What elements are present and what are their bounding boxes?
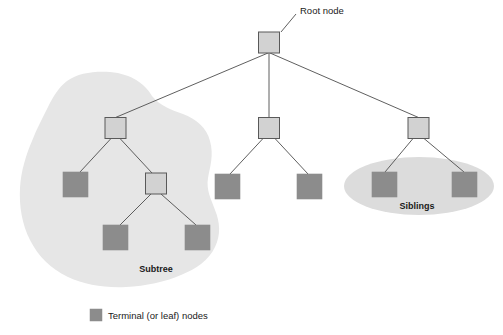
subtree-region-shape xyxy=(20,72,219,287)
root-node-label: Root node xyxy=(300,5,344,16)
leaf-node-middle-2 xyxy=(297,174,322,199)
internal-node-middle xyxy=(259,118,280,139)
internal-node-left xyxy=(105,118,126,139)
internal-node-left-sub xyxy=(146,173,167,194)
legend: Terminal (or leaf) nodes xyxy=(90,309,208,321)
leaf-node-left-3 xyxy=(185,225,210,250)
legend-swatch-terminal-node xyxy=(90,309,102,321)
internal-node-right xyxy=(408,118,429,139)
edge-root-right xyxy=(270,53,419,118)
legend-label-terminal-node: Terminal (or leaf) nodes xyxy=(108,310,208,321)
leaf-node-left-1 xyxy=(63,172,88,197)
leaf-node-left-2 xyxy=(103,225,128,250)
siblings-region-label: Siblings xyxy=(399,201,434,211)
root-node xyxy=(259,32,280,53)
leaf-node-middle-1 xyxy=(215,174,240,199)
leaf-node-right-1 xyxy=(372,172,397,197)
leaf-node-right-2 xyxy=(452,172,477,197)
edge-middle-leaf1 xyxy=(230,139,263,175)
tree-diagram-figure: Root node Subtree Siblings Terminal (or … xyxy=(0,0,503,335)
root-label-leader-line xyxy=(281,14,296,32)
edge-middle-leaf2 xyxy=(275,139,308,175)
subtree-region-label: Subtree xyxy=(139,264,173,274)
tree-diagram-canvas: Root node Subtree Siblings Terminal (or … xyxy=(0,0,503,335)
